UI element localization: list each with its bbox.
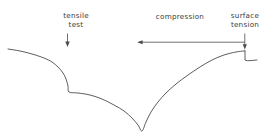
compression-arrowhead-left-icon: [137, 40, 142, 44]
compression-arrowhead-down-icon: [243, 44, 247, 49]
tensile-test-arrowhead-icon: [65, 42, 69, 47]
tensile-test-arrow: [65, 34, 69, 48]
force-trace-line: [8, 49, 257, 131]
annotation-label-surface-tension: surface tension: [222, 12, 268, 29]
annotation-label-compression: compression: [144, 13, 216, 22]
annotation-label-tensile-test: tensile test: [52, 12, 100, 29]
compression-arrow: [137, 40, 247, 49]
figure-container: tensile test compression surface tension: [0, 0, 269, 137]
